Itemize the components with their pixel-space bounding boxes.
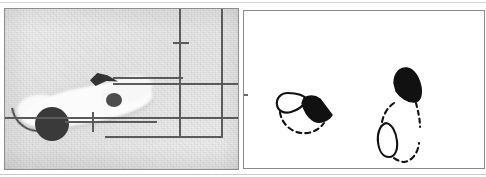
dark-round-blob [35,107,69,141]
overlay-horizontal-line-2 [5,117,238,119]
overlay-horizontal-line-3 [105,136,223,138]
leader-line [113,77,183,79]
figure-top-rule [0,2,486,3]
black-blob-icon [394,68,421,102]
line-drawing-canvas [244,11,484,168]
black-wedge-icon [302,96,332,122]
figure-bottom-rule [0,174,486,175]
outlined-oval-icon [378,123,397,157]
figure-root: pale elongated specimen [0,0,486,177]
line-drawing-panel-label: line-drawing [244,168,245,169]
edge-rule-mark [244,94,248,96]
overlay-horizontal-line-1 [113,83,238,85]
cross-marker-vertical [92,112,94,132]
photograph-panel: pale elongated specimen [4,8,239,170]
tick-mark [173,42,189,44]
drawing-left [277,93,332,133]
drawing-right [378,68,421,162]
cross-marker-horizontal [65,121,157,123]
dashed-connector-icon [416,103,420,127]
line-drawing-panel: line-drawing [243,10,485,169]
small-dark-blob [106,93,122,107]
